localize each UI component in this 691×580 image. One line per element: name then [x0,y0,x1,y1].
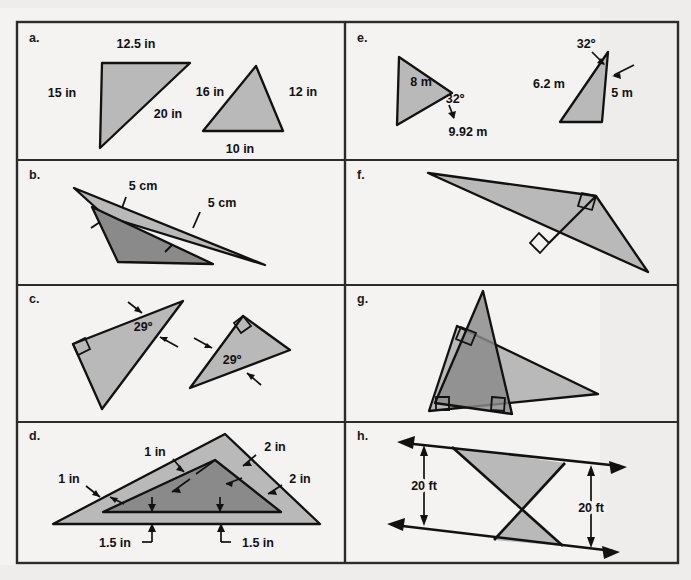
panel-letter-h: h. [357,429,368,443]
panel-letter-f: f. [357,168,365,182]
label-5-cm-outer: 5 cm [129,179,158,193]
label-10-in: 10 in [226,142,255,156]
panel-letter-c: c. [29,292,39,306]
label-1-5-in-right: 1.5 in [242,536,274,550]
panel-letter-b: b. [29,168,40,182]
label-1-in-top: 1 in [144,445,166,459]
panel-letter-a: a. [29,31,39,45]
label-8-m: 8 m [410,75,432,89]
label-5-cm-inner: 5 cm [208,196,237,210]
label-20-ft-right: 20 ft [578,501,605,515]
label-20-ft-left: 20 ft [411,479,438,493]
label-16-in: 16 in [196,85,225,99]
label-12-5-in: 12.5 in [117,37,156,51]
label-9-92-m: 9.92 m [449,125,488,139]
worksheet-figure: a. 12.5 in 15 in 20 in 16 in 12 in 10 in… [0,0,691,580]
label-29-deg-left: 29º [134,320,153,334]
label-1-in-left: 1 in [58,472,80,486]
panel-letter-e: e. [357,31,367,45]
panel-letter-d: d. [29,429,40,443]
label-6-2-m: 6.2 m [533,77,565,91]
worksheet-page: a. 12.5 in 15 in 20 in 16 in 12 in 10 in… [0,0,691,580]
label-5-m: 5 m [611,86,633,100]
label-2-in-top: 2 in [264,440,286,454]
panel-letter-g: g. [357,292,368,306]
label-29-deg-right: 29º [223,353,242,367]
label-15-in: 15 in [48,86,77,100]
label-32-deg-right: 32º [577,37,596,51]
label-2-in-right: 2 in [289,472,311,486]
label-32-deg-left: 32º [446,92,465,106]
label-20-in: 20 in [154,107,183,121]
label-1-5-in-left: 1.5 in [99,536,131,550]
label-12-in: 12 in [289,85,318,99]
